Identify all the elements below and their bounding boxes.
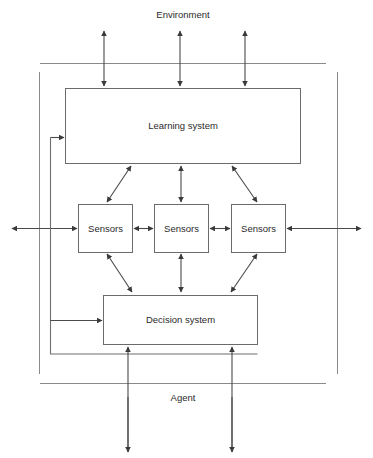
decision-system-label: Decision system: [146, 314, 215, 325]
sensor-left-decision-arrow: [107, 254, 132, 292]
diagram-root: Learning system Sensors Sensors Sensors: [0, 0, 373, 458]
sensor-right-label: Sensors: [241, 223, 276, 234]
learning-system-block[interactable]: Learning system: [66, 89, 301, 164]
learning-sensor-right-arrow: [232, 166, 257, 202]
decision-system-block[interactable]: Decision system: [104, 296, 258, 345]
sensor-left-block[interactable]: Sensors: [79, 205, 133, 253]
sensors-decision-arrows: [107, 254, 257, 292]
sensor-right-block[interactable]: Sensors: [232, 205, 286, 253]
env-learning-arrows: [104, 31, 245, 86]
environment-region-label: Environment: [156, 9, 210, 20]
block-diagram-canvas: Learning system Sensors Sensors Sensors: [0, 0, 373, 458]
agent-region-label: Agent: [171, 392, 196, 403]
sensor-left-label: Sensors: [88, 223, 123, 234]
learning-sensor-left-arrow: [107, 166, 131, 202]
sensor-middle-label: Sensors: [164, 223, 199, 234]
learning-system-label: Learning system: [148, 120, 218, 131]
sensor-middle-block[interactable]: Sensors: [155, 205, 209, 253]
sensor-right-decision-arrow: [231, 254, 257, 292]
learning-sensors-arrows: [107, 166, 257, 202]
